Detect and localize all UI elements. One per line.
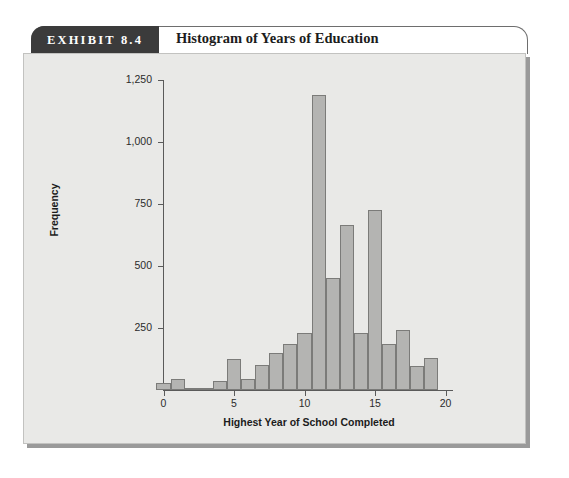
exhibit-number-tab: EXHIBIT 8.4 (31, 26, 159, 54)
y-tick-label-wrap: 250 (24, 321, 152, 333)
x-tick-label: 5 (219, 397, 249, 409)
histogram-plot: 2505007501,0001,250 05101520 Frequency H… (24, 54, 526, 444)
histogram-bar (185, 388, 199, 390)
exhibit-number-label: EXHIBIT 8.4 (47, 33, 143, 48)
y-tick-mark (158, 80, 163, 81)
x-tick-label: 0 (149, 397, 179, 409)
y-axis-line (163, 80, 164, 391)
histogram-bar (396, 330, 410, 390)
y-tick-label-wrap: 500 (24, 259, 152, 271)
histogram-bar (171, 379, 185, 390)
x-tick-label: 15 (360, 397, 390, 409)
histogram-bar (227, 359, 241, 390)
histogram-bar (241, 379, 255, 390)
histogram-bar (312, 95, 326, 390)
figure-panel: 2505007501,0001,250 05101520 Frequency H… (23, 53, 526, 444)
x-tick-mark (446, 391, 447, 396)
y-tick-mark (158, 328, 163, 329)
y-axis-title: Frequency (48, 165, 60, 255)
histogram-bar (382, 344, 396, 390)
y-tick-label-wrap: 1,250 (24, 73, 152, 85)
histogram-bar (255, 365, 269, 390)
histogram-bar (340, 225, 354, 390)
histogram-bar (368, 210, 382, 390)
x-tick-mark (234, 391, 235, 396)
x-tick-mark (375, 391, 376, 396)
y-tick-label: 1,250 (24, 73, 152, 85)
y-tick-mark (158, 266, 163, 267)
histogram-bar (283, 344, 297, 390)
histogram-bar (269, 353, 283, 390)
x-tick-mark (164, 391, 165, 396)
y-tick-mark (158, 142, 163, 143)
y-tick-label: 250 (24, 321, 152, 333)
histogram-bar (354, 333, 368, 390)
y-tick-label: 750 (24, 197, 152, 209)
y-tick-mark (158, 204, 163, 205)
histogram-bar (410, 366, 424, 390)
exhibit-container: EXHIBIT 8.4 Histogram of Years of Educat… (0, 0, 569, 478)
x-axis-line (163, 390, 453, 391)
y-tick-label-wrap: 750 (24, 197, 152, 209)
x-tick-label: 20 (431, 397, 461, 409)
y-tick-label: 1,000 (24, 135, 152, 147)
x-tick-mark (305, 391, 306, 396)
exhibit-title: Histogram of Years of Education (176, 30, 378, 47)
x-axis-title: Highest Year of School Completed (163, 416, 455, 428)
histogram-bar (199, 388, 213, 390)
histogram-bar (326, 278, 340, 390)
histogram-bar (424, 358, 438, 390)
histogram-bar (213, 381, 227, 390)
histogram-bar (156, 383, 170, 390)
histogram-bar (297, 333, 311, 390)
y-tick-label: 500 (24, 259, 152, 271)
y-tick-label-wrap: 1,000 (24, 135, 152, 147)
x-tick-label: 10 (290, 397, 320, 409)
